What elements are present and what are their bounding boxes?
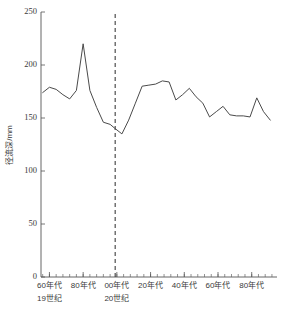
y-tick-label-250: 250 [24,6,37,16]
era-label: 19世纪 [37,293,62,303]
runoff-depth-chart: 径流深/mm 0 50 100 150 200 250 60年代80年代00年代… [0,0,285,309]
x-tick-label: 20年代 [138,280,163,290]
y-tick-label-150: 150 [24,112,37,122]
x-tick-label: 00年代 [104,280,129,290]
y-axis-ticks: 0 50 100 150 200 250 [24,6,45,281]
y-tick-label-200: 200 [24,59,37,69]
y-tick-label-50: 50 [29,218,38,228]
x-tick-label: 40年代 [172,280,197,290]
y-tick-label-100: 100 [24,165,37,175]
x-tick-label: 80年代 [239,280,264,290]
x-tick-label: 80年代 [71,280,96,290]
y-axis-label: 径流深/mm [4,125,14,165]
x-axis-tick-labels: 60年代80年代00年代20年代40年代60年代80年代 [37,280,264,290]
x-tick-label: 60年代 [37,280,62,290]
x-axis-major-ticks [49,272,251,277]
era-label: 20世纪 [104,293,129,303]
runoff-series-line [43,44,271,134]
x-tick-label: 60年代 [206,280,231,290]
y-tick-label-0: 0 [33,271,37,281]
chart-canvas: 径流深/mm 0 50 100 150 200 250 60年代80年代00年代… [0,0,285,309]
x-axis-era-labels: 19世纪20世纪 [37,293,129,303]
y-axis-label-text: 径流深/mm [4,125,14,165]
